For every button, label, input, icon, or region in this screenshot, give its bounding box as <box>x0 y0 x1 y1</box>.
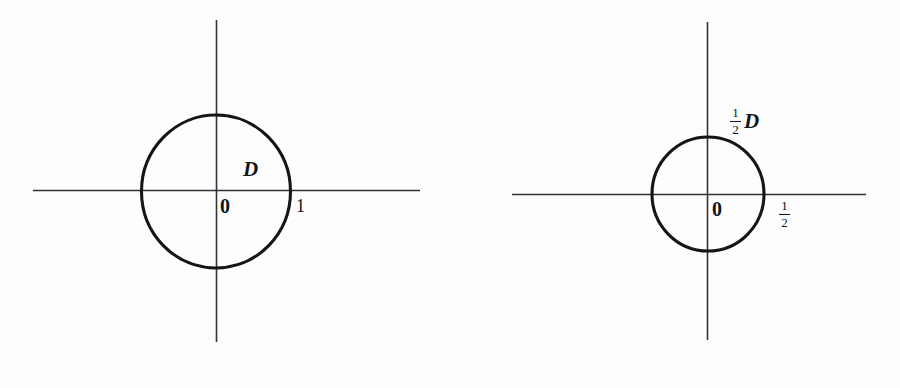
fraction-one-half: 1 2 <box>779 199 790 230</box>
fraction-denominator: 2 <box>780 216 789 230</box>
origin-label: 0 <box>220 196 230 216</box>
fraction-numerator: 1 <box>731 106 740 120</box>
region-label-D: D <box>243 159 258 180</box>
fraction-one-half: 1 2 <box>730 106 741 137</box>
region-label-half-D: 1 2 D <box>730 104 759 137</box>
fraction-denominator: 2 <box>731 123 740 137</box>
half-disk-graphics <box>450 0 900 388</box>
radius-tick-label-one-half: 1 2 <box>779 199 790 230</box>
half-disk-panel: 1 2 D 0 1 2 <box>450 0 900 388</box>
figure-canvas: D 0 1 1 2 D 0 1 2 <box>0 0 900 388</box>
unit-disk-panel: D 0 1 <box>0 0 450 388</box>
origin-label: 0 <box>712 199 722 219</box>
unit-disk-graphics <box>0 0 450 388</box>
radius-tick-label-1: 1 <box>296 197 305 215</box>
fraction-numerator: 1 <box>780 199 789 213</box>
region-symbol-D: D <box>744 111 759 132</box>
